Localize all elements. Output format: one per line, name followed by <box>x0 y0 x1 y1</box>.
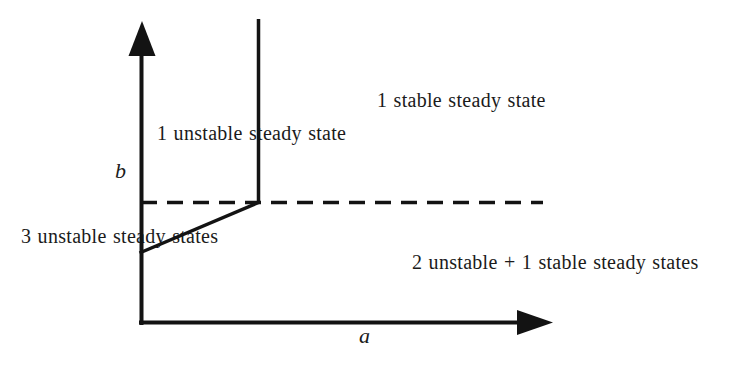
phase-diagram: 1 unstable steady state 1 stable steady … <box>0 0 735 369</box>
y-axis-arrowhead-icon <box>129 21 156 56</box>
x-axis-arrowhead-icon <box>517 310 553 335</box>
diagonal-boundary-line <box>140 203 259 254</box>
diagram-lines-layer <box>0 0 735 369</box>
